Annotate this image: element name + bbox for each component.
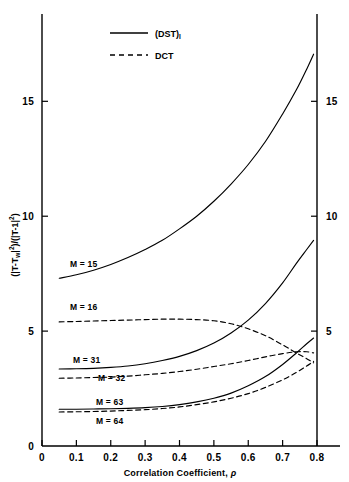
- y-tick-label-left: 5: [28, 326, 34, 337]
- curve-annotations: M = 15 M = 16 M = 31 M = 32 M = 63 M = 6…: [70, 259, 125, 426]
- x-tick-label: 0.5: [206, 452, 221, 463]
- figure-panel: 00.10.20.30.40.50.60.70.8 051015 51015 (…: [0, 0, 349, 482]
- label-m32: M = 32: [98, 373, 125, 383]
- x-tick-label: 0: [39, 452, 45, 463]
- y-tick-label-left: 15: [22, 96, 34, 107]
- y-tick-labels-left: 051015: [22, 96, 34, 452]
- legend: (DST)I DCT: [110, 29, 181, 61]
- chart-canvas: 00.10.20.30.40.50.60.70.8 051015 51015 (…: [0, 0, 349, 482]
- x-axis-title: Correlation Coefficient, ρ: [124, 468, 237, 478]
- y-tick-label-left: 0: [28, 441, 34, 452]
- y-tick-marks-right: [311, 101, 317, 331]
- x-tick-label: 0.2: [103, 452, 118, 463]
- y-tick-labels-right: 51015: [326, 96, 338, 337]
- x-tick-marks: [42, 440, 317, 446]
- y-axis-title: (|T-Tw|2)/(|T-1|2): [8, 213, 21, 276]
- x-tick-label: 0.1: [69, 452, 84, 463]
- y-tick-label-right: 15: [326, 96, 338, 107]
- y-tick-label-right: 5: [326, 326, 332, 337]
- x-tick-label: 0.6: [241, 452, 256, 463]
- label-m64: M = 64: [96, 416, 123, 426]
- x-tick-label: 0.7: [275, 452, 290, 463]
- legend-label-dst: (DST)I: [155, 29, 181, 40]
- label-m63: M = 63: [96, 397, 123, 407]
- y-tick-marks-left: [42, 101, 48, 331]
- axis-lines: [42, 14, 340, 446]
- label-m15: M = 15: [70, 259, 97, 269]
- label-m31: M = 31: [73, 355, 100, 365]
- x-tick-label: 0.4: [172, 452, 187, 463]
- y-tick-label-right: 10: [326, 211, 338, 222]
- legend-label-dct: DCT: [155, 51, 174, 61]
- x-tick-label: 0.3: [138, 452, 153, 463]
- x-tick-label: 0.8: [310, 452, 325, 463]
- label-m16: M = 16: [70, 302, 97, 312]
- y-tick-label-left: 10: [22, 211, 34, 222]
- curve-m=15: [59, 54, 313, 278]
- x-tick-labels: 00.10.20.30.40.50.60.70.8: [39, 452, 324, 463]
